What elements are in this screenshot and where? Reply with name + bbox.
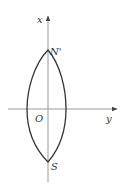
origin-label: O xyxy=(35,113,43,124)
x-axis-label: x xyxy=(37,14,43,25)
diagram-canvas: x y O N' S xyxy=(0,0,122,190)
point-s-label: S xyxy=(51,161,58,172)
coordinate-diagram: x y O N' S xyxy=(0,0,122,190)
point-n-prime-label: N' xyxy=(49,46,62,57)
y-axis-label: y xyxy=(105,113,112,124)
lens-curve xyxy=(27,50,66,162)
